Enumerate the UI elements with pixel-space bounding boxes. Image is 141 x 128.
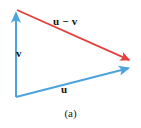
label-v: v: [16, 48, 22, 59]
figure-caption: (a): [0, 107, 141, 119]
label-u: u: [61, 84, 67, 95]
vector-diagram-figure: u − v v u (a): [0, 0, 141, 128]
vector-u-shaft: [16, 68, 129, 97]
vector-u: [16, 68, 129, 97]
label-u-minus-v: u − v: [53, 16, 77, 27]
